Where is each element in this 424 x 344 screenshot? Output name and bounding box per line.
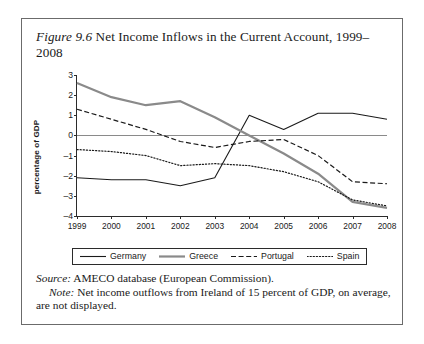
- series-line-germany: [77, 113, 387, 186]
- source-line: Source: AMECO database (European Commiss…: [36, 272, 392, 286]
- x-axis-tick-mark: [318, 216, 319, 219]
- legend-swatch-portugal: [231, 253, 257, 260]
- x-axis-tick-label: 2006: [309, 221, 328, 231]
- y-axis-tick-mark: [74, 115, 77, 116]
- chart: percentage of GDP 3210–1–2–3–41999200020…: [38, 71, 390, 243]
- y-axis-tick-label: 2: [68, 90, 73, 100]
- y-axis-tick-label: –3: [63, 191, 73, 201]
- x-axis-tick-label: 2002: [171, 221, 190, 231]
- y-axis-tick-mark: [74, 196, 77, 197]
- legend-label: Portugal: [261, 251, 294, 261]
- legend-item-germany: Germany: [80, 251, 146, 261]
- figure-notes: Source: AMECO database (European Commiss…: [36, 272, 392, 313]
- figure-label: Figure 9.6: [36, 29, 92, 44]
- x-axis-tick-mark: [111, 216, 112, 219]
- note-line: Note: Net income outflows from Ireland o…: [36, 286, 392, 313]
- legend-swatch-spain: [307, 253, 333, 260]
- y-axis-tick-label: 3: [68, 70, 73, 80]
- x-axis-tick-mark: [215, 216, 216, 219]
- figure-caption: Figure 9.6 Net Income Inflows in the Cur…: [36, 29, 388, 60]
- chart-legend: GermanyGreecePortugalSpain: [72, 248, 367, 265]
- x-axis-tick-mark: [180, 216, 181, 219]
- y-axis-tick-mark: [74, 135, 77, 136]
- chart-lines: [77, 75, 387, 216]
- plot-area: 3210–1–2–3–41999200020012002200320042005…: [76, 75, 387, 217]
- x-axis-tick-label: 2005: [274, 221, 293, 231]
- legend-item-spain: Spain: [307, 251, 360, 261]
- x-axis-tick-mark: [284, 216, 285, 219]
- y-axis-title: percentage of GDP: [32, 120, 41, 195]
- y-axis-tick-mark: [74, 176, 77, 177]
- series-line-spain: [77, 150, 387, 206]
- x-axis-tick-label: 2008: [378, 221, 397, 231]
- note-label: Note:: [49, 286, 74, 298]
- y-axis-tick-mark: [74, 95, 77, 96]
- x-axis-tick-label: 1999: [68, 221, 87, 231]
- x-axis-tick-mark: [249, 216, 250, 219]
- legend-item-portugal: Portugal: [231, 251, 294, 261]
- x-axis-tick-label: 2001: [137, 221, 156, 231]
- x-axis-tick-label: 2004: [240, 221, 259, 231]
- x-axis-tick-label: 2003: [205, 221, 224, 231]
- y-axis-tick-mark: [74, 156, 77, 157]
- legend-label: Germany: [110, 251, 146, 261]
- y-axis-tick-label: –4: [63, 211, 73, 221]
- x-axis-tick-mark: [77, 216, 78, 219]
- x-axis-tick-mark: [353, 216, 354, 219]
- legend-item-greece: Greece: [159, 251, 218, 261]
- legend-swatch-greece: [159, 253, 185, 260]
- y-axis-tick-mark: [74, 75, 77, 76]
- x-axis-tick-mark: [387, 216, 388, 219]
- source-text: AMECO database (European Commission).: [73, 272, 274, 284]
- y-axis-tick-label: 1: [68, 110, 73, 120]
- y-axis-tick-label: –2: [63, 171, 73, 181]
- figure-container: Figure 9.6 Net Income Inflows in the Cur…: [21, 18, 403, 325]
- source-label: Source:: [36, 272, 71, 284]
- y-axis-tick-label: 0: [68, 130, 73, 140]
- x-axis-tick-label: 2000: [102, 221, 121, 231]
- x-axis-tick-mark: [146, 216, 147, 219]
- legend-label: Greece: [189, 251, 218, 261]
- legend-swatch-germany: [80, 253, 106, 260]
- note-text: Net income outflows from Ireland of 15 p…: [36, 286, 391, 312]
- legend-label: Spain: [337, 251, 360, 261]
- x-axis-tick-label: 2007: [343, 221, 362, 231]
- y-axis-tick-label: –1: [63, 151, 73, 161]
